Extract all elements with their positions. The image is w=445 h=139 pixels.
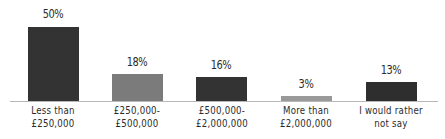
category-label: I would rather not say <box>354 104 428 130</box>
value-label: 18% <box>104 55 170 69</box>
value-label: 50% <box>20 7 86 21</box>
bar-rather-not-say <box>366 82 417 101</box>
x-axis-line <box>10 101 438 102</box>
category-label: Less than £250,000 <box>16 104 90 130</box>
bar-chart: 50% Less than £250,000 18% £250,000- £50… <box>0 0 445 139</box>
value-label: 16% <box>188 58 254 72</box>
bar-500k-2m <box>196 77 247 101</box>
value-label: 13% <box>358 63 424 77</box>
bar-250k-500k <box>112 74 163 101</box>
bar-less-than-250k <box>28 27 79 101</box>
category-label: £250,000- £500,000 <box>100 104 174 130</box>
value-label: 3% <box>273 77 339 91</box>
category-label: £500,000- £2,000,000 <box>185 104 259 130</box>
category-label: More than £2,000,000 <box>269 104 343 130</box>
bar-more-than-2m <box>281 96 332 101</box>
